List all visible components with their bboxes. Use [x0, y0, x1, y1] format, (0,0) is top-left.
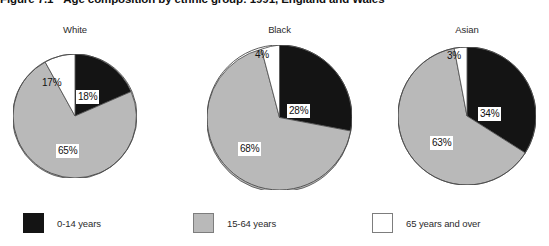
- pie-label-asian-65-plus: 3%: [447, 50, 461, 62]
- pie-chart-white: White 18% 65% 17%: [13, 24, 137, 180]
- legend-swatch-15-64: [193, 213, 214, 233]
- legend-label-65-plus: 65 years and over: [406, 218, 480, 229]
- legend-swatch-0-14: [23, 213, 44, 233]
- pie-label-white-0-14: 18%: [76, 90, 99, 104]
- pie-label-white-15-64: 65%: [56, 144, 79, 158]
- figure-title-text: Age composition by ethnic group: 1991, E…: [63, 0, 384, 5]
- pie-caption-asian: Asian: [398, 24, 536, 35]
- legend-swatch-65-plus: [372, 213, 393, 233]
- legend-label-0-14: 0-14 years: [57, 218, 101, 229]
- pie-svg-black: [207, 45, 352, 190]
- legend-item-0-14: 0-14 years: [23, 211, 101, 235]
- pie-label-white-65-plus: 17%: [42, 77, 61, 89]
- legend: 0-14 years 15-64 years 65 years and over: [0, 205, 549, 246]
- pie-caption-white: White: [13, 24, 137, 35]
- pie-svg-white: [13, 54, 137, 178]
- figure-number: Figure 7.1: [0, 0, 53, 5]
- pie-label-black-65-plus: 4%: [255, 49, 269, 61]
- pie-label-black-0-14: 28%: [287, 104, 310, 118]
- pie-svg-asian: [398, 47, 536, 185]
- pie-label-asian-0-14: 34%: [478, 107, 501, 121]
- pie-label-asian-15-64: 63%: [430, 136, 453, 150]
- legend-item-65-plus: 65 years and over: [372, 211, 480, 235]
- pie-caption-black: Black: [207, 24, 352, 35]
- pie-label-black-15-64: 68%: [238, 142, 261, 156]
- pie-chart-black: Black 28% 68% 4%: [207, 24, 352, 194]
- legend-item-15-64: 15-64 years: [193, 211, 276, 235]
- figure-title: Figure 7.1Age composition by ethnic grou…: [0, 0, 549, 11]
- legend-label-15-64: 15-64 years: [227, 218, 276, 229]
- slice-black-0-14: [280, 45, 352, 131]
- pie-chart-asian: Asian 34% 63% 3%: [398, 24, 536, 189]
